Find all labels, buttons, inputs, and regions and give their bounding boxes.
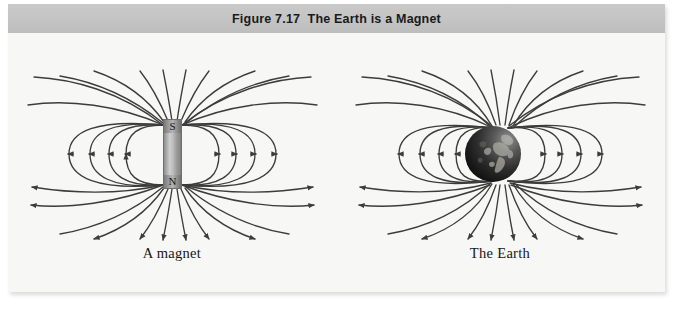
earth-panel: The Earth [336,33,664,292]
figure-title: Figure 7.17 The Earth is a Magnet [232,12,441,26]
magnet-panel: S N A magnet [8,33,336,292]
magnet-pole-label-south: S [164,120,181,133]
earth-globe [465,126,521,182]
earth-highlight [465,126,521,182]
figure-plate: Figure 7.17 The Earth is a Magnet [8,4,665,292]
magnet-panel-caption: A magnet [8,245,336,262]
figure-canvas: S N A magnet [8,33,665,292]
earth-panel-caption: The Earth [336,245,664,262]
figure-title-band: Figure 7.17 The Earth is a Magnet [8,4,665,33]
figure-root: Figure 7.17 The Earth is a Magnet [0,0,680,309]
magnet-pole-label-north: N [164,175,181,188]
bar-magnet: S N [163,119,182,189]
